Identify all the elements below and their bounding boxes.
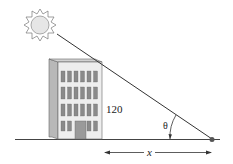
distance-arrow	[104, 151, 212, 155]
office-building	[49, 59, 102, 139]
building-door	[75, 121, 86, 139]
height-label: 120	[106, 104, 123, 115]
angle-arc-arrowhead	[169, 134, 173, 139]
diagram-svg	[0, 0, 233, 164]
observer-point	[210, 137, 215, 142]
building-side-face	[49, 59, 58, 139]
sun-icon	[24, 9, 56, 41]
diagram-canvas: 120 θ x	[0, 0, 233, 164]
distance-label: x	[147, 147, 152, 158]
angle-label: θ	[163, 121, 168, 131]
